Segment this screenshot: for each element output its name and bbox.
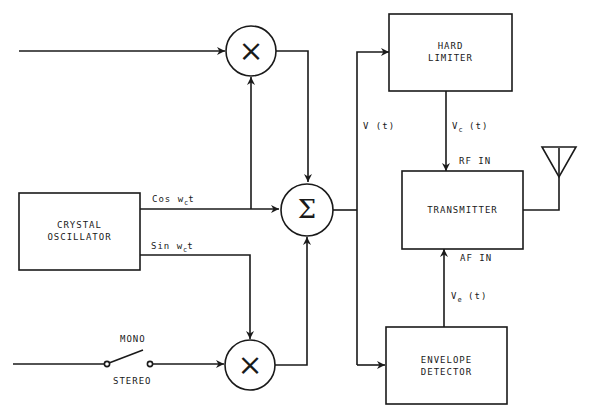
- block-diagram: × Σ × CRYSTAL OSCILLATOR HARD LIMITER TR…: [0, 0, 591, 419]
- rf-in-label: RF IN: [459, 156, 491, 166]
- vt-signal-label: V (t): [363, 121, 395, 131]
- sigma-icon: Σ: [287, 189, 327, 229]
- multiply-icon: ×: [231, 31, 271, 71]
- mono-stereo-switch: [104, 348, 154, 368]
- hard-limiter-label: HARD LIMITER: [389, 40, 512, 64]
- crystal-oscillator-line1: CRYSTAL: [19, 219, 140, 231]
- hard-limiter-line1: HARD: [389, 40, 512, 52]
- crystal-oscillator-line2: OSCILLATOR: [19, 231, 140, 243]
- antenna-icon: [542, 147, 576, 210]
- vc-signal-label: Vc (t): [452, 121, 488, 134]
- crystal-oscillator-label: CRYSTAL OSCILLATOR: [19, 219, 140, 243]
- envelope-detector-line1: ENVELOPE: [386, 354, 507, 366]
- hard-limiter-line2: LIMITER: [389, 52, 512, 64]
- multiply-icon: ×: [230, 345, 270, 385]
- mono-switch-label: MONO: [120, 334, 146, 344]
- cos-signal-label: Cos wct: [152, 194, 195, 207]
- envelope-detector-line2: DETECTOR: [386, 366, 507, 378]
- envelope-detector-label: ENVELOPE DETECTOR: [386, 354, 507, 378]
- sin-signal-label: Sin wct: [151, 241, 194, 254]
- af-in-label: AF IN: [460, 253, 492, 263]
- ve-signal-label: Ve (t): [451, 291, 487, 304]
- transmitter-label: TRANSMITTER: [402, 204, 523, 216]
- stereo-switch-label: STEREO: [113, 376, 152, 386]
